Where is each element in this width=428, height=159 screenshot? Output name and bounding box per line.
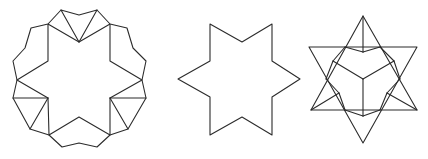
- cube-edge: [394, 61, 400, 79]
- diagram-canvas: [0, 0, 428, 159]
- hexagram-outline: [178, 24, 300, 135]
- cube-edge: [363, 47, 380, 52]
- cube-edge: [363, 61, 394, 79]
- cube-edge: [326, 79, 339, 93]
- cube-edge: [363, 110, 380, 116]
- six-pointed-star-figure: [178, 24, 300, 135]
- stellated-cube-star-figure: [309, 16, 417, 143]
- twelve-sided-star-figure: [13, 10, 146, 147]
- cube-edge: [345, 47, 363, 52]
- cube-edge: [387, 79, 400, 93]
- fold-line: [110, 98, 128, 129]
- fold-line: [30, 98, 48, 129]
- cube-edge: [380, 47, 394, 61]
- cube-edge: [333, 61, 363, 79]
- geometric-figures-diagram: [0, 0, 428, 159]
- upward-triangle: [311, 16, 417, 110]
